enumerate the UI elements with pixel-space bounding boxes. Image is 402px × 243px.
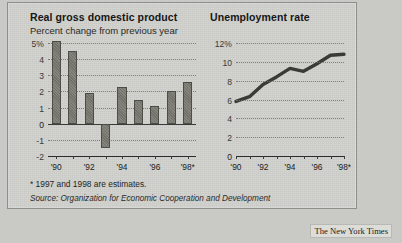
unemployment-y-tick-label: 0 <box>227 152 232 162</box>
publisher-credit: The New York Times <box>310 224 392 238</box>
unemployment-x-tick <box>331 156 332 159</box>
gdp-chart-subtitle: Percent change from previous year <box>30 25 178 36</box>
gdp-x-tick <box>122 156 123 159</box>
gdp-x-tick <box>56 156 57 159</box>
unemployment-x-tick <box>304 156 305 159</box>
gdp-x-tick-label: '92 <box>84 162 95 172</box>
unemployment-gridline: 6 <box>236 100 344 101</box>
estimates-footnote: * 1997 and 1998 are estimates. <box>30 179 146 189</box>
gdp-y-tick-label: 1 <box>39 104 44 114</box>
gdp-x-tick <box>188 156 189 159</box>
unemployment-y-tick-label: 12% <box>215 39 232 49</box>
gdp-y-tick-label: 2 <box>39 87 44 97</box>
source-line: Source: Organization for Economic Cooper… <box>30 194 270 203</box>
gdp-bar <box>101 124 110 148</box>
gdp-x-tick <box>106 156 107 159</box>
gdp-x-tick <box>171 156 172 159</box>
unemployment-x-tick-label: '94 <box>285 162 296 172</box>
gdp-plot-area: 5%43210-1-2'90'92'94'96'98* <box>48 43 196 156</box>
unemployment-x-tick <box>317 156 318 159</box>
unemployment-chart-title: Unemployment rate <box>210 11 310 23</box>
gdp-x-tick <box>89 156 90 159</box>
gdp-bar <box>85 93 94 124</box>
gdp-bar <box>117 87 126 124</box>
gdp-gridline: 5% <box>48 43 196 44</box>
gdp-x-tick-label: '96 <box>149 162 160 172</box>
figure-frame: Real gross domestic product Percent chan… <box>7 2 357 209</box>
unemployment-y-tick-label: 8 <box>227 77 232 87</box>
gdp-x-tick-label: '90 <box>51 162 62 172</box>
gdp-bar <box>134 100 143 124</box>
unemployment-gridline: 12% <box>236 43 344 44</box>
unemployment-x-tick <box>236 156 237 159</box>
gdp-bar <box>68 51 77 124</box>
gdp-gridline: -1 <box>48 140 196 141</box>
gdp-y-tick-label: -1 <box>36 136 44 146</box>
unemployment-x-tick <box>290 156 291 159</box>
unemployment-x-tick <box>263 156 264 159</box>
gdp-bar <box>52 41 61 123</box>
unemployment-gridline: 4 <box>236 118 344 119</box>
unemployment-x-tick-label: '96 <box>312 162 323 172</box>
gdp-bar <box>150 106 159 124</box>
gdp-bar <box>183 82 192 124</box>
unemployment-gridline: 8 <box>236 81 344 82</box>
unemployment-y-tick-label: 6 <box>227 96 232 106</box>
unemployment-gridline: 10 <box>236 62 344 63</box>
unemployment-x-tick-label: '90 <box>231 162 242 172</box>
gdp-gridline: 0 <box>48 124 196 125</box>
gdp-y-tick-label: 4 <box>39 55 44 65</box>
unemployment-x-tick <box>344 156 345 159</box>
unemployment-x-tick <box>277 156 278 159</box>
unemployment-panel: Unemployment rate 12%1086420'90'92'94'96… <box>204 3 356 208</box>
unemployment-y-tick-label: 10 <box>222 58 232 68</box>
unemployment-plot-area: 12%1086420'90'92'94'96'98* <box>236 43 344 156</box>
gdp-x-tick <box>73 156 74 159</box>
unemployment-gridline: 2 <box>236 137 344 138</box>
gdp-bar <box>167 91 176 123</box>
gdp-y-tick-label: -2 <box>36 152 44 162</box>
unemployment-x-tick <box>250 156 251 159</box>
gdp-x-tick-label: '94 <box>117 162 128 172</box>
gdp-y-tick-label: 0 <box>39 120 44 130</box>
gdp-x-tick <box>138 156 139 159</box>
unemployment-y-tick-label: 4 <box>227 114 232 124</box>
unemployment-x-tick-label: '98* <box>337 162 351 172</box>
gdp-panel: Real gross domestic product Percent chan… <box>8 3 204 208</box>
unemployment-y-tick-label: 2 <box>227 133 232 143</box>
unemployment-x-tick-label: '92 <box>258 162 269 172</box>
gdp-chart-title: Real gross domestic product <box>30 11 177 23</box>
gdp-y-tick-label: 3 <box>39 71 44 81</box>
gdp-x-tick <box>155 156 156 159</box>
gdp-y-tick-label: 5% <box>32 39 44 49</box>
gdp-x-tick-label: '98* <box>181 162 195 172</box>
